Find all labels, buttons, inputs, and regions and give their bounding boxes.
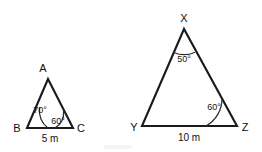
triangle-xyz-outline	[142, 29, 237, 126]
angle-label-x: 50°	[177, 54, 191, 64]
angle-label-c: 60°	[51, 116, 65, 126]
side-label-bc: 5 m	[42, 133, 59, 144]
triangle-abc-outline	[27, 79, 73, 128]
scan-artifact	[104, 145, 132, 149]
vertex-label-z: Z	[242, 121, 249, 133]
side-label-yz: 10 m	[178, 132, 200, 143]
vertex-label-b: B	[13, 122, 20, 134]
vertex-label-c: C	[77, 122, 85, 134]
vertex-label-y: Y	[130, 121, 138, 133]
angle-label-z: 60°	[207, 102, 221, 112]
triangle-abc: A B C 70° 60° 5 m	[13, 62, 85, 144]
vertex-label-a: A	[39, 62, 47, 74]
vertex-label-x: X	[180, 12, 188, 24]
geometry-figure-canvas: A B C 70° 60° 5 m X Y Z 50° 60° 10 m	[0, 0, 262, 152]
triangle-xyz: X Y Z 50° 60° 10 m	[130, 12, 248, 143]
angle-label-b: 70°	[33, 105, 47, 115]
